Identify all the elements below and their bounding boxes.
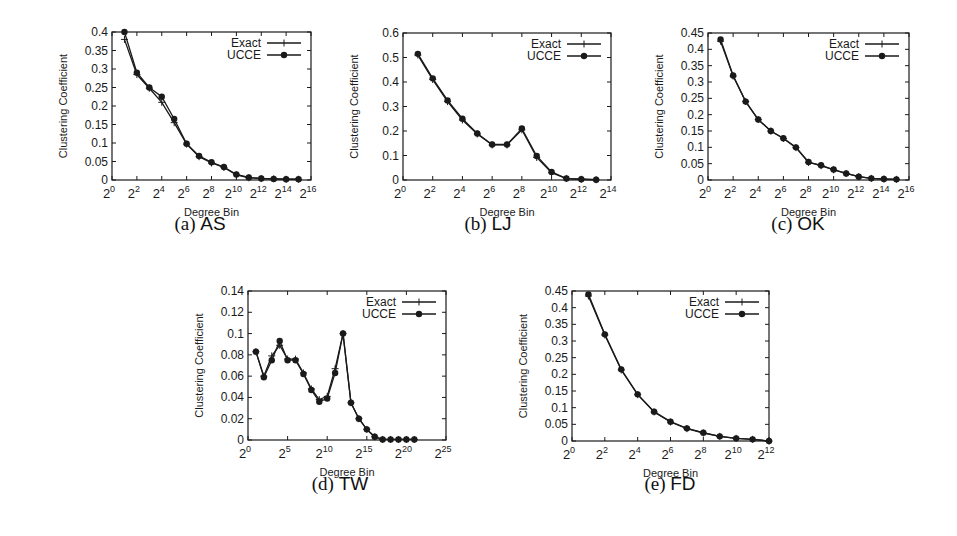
svg-text:22: 22: [424, 184, 436, 201]
chart-lj: 00.10.20.30.40.50.62022242628210212214De…: [320, 0, 640, 245]
svg-text:25: 25: [278, 444, 290, 461]
svg-text:0.1: 0.1: [382, 149, 399, 163]
svg-text:0.25: 0.25: [85, 81, 109, 95]
svg-text:214: 214: [872, 184, 889, 201]
svg-text:26: 26: [178, 184, 190, 201]
svg-text:0.4: 0.4: [687, 42, 704, 56]
svg-text:0.2: 0.2: [687, 108, 704, 122]
svg-text:0.4: 0.4: [91, 25, 108, 39]
caption-name: TW: [339, 473, 369, 494]
svg-text:225: 225: [434, 444, 451, 461]
svg-text:0.2: 0.2: [382, 124, 399, 138]
caption-label: (a): [174, 213, 195, 234]
svg-text:22: 22: [596, 445, 608, 462]
caption-name: OK: [797, 213, 824, 234]
caption-label: (c): [771, 213, 792, 234]
svg-text:22: 22: [128, 184, 140, 201]
svg-text:0.15: 0.15: [545, 384, 569, 398]
svg-text:0.1: 0.1: [551, 401, 568, 415]
svg-text:26: 26: [483, 184, 495, 201]
caption-tw: (d) TW: [270, 473, 410, 495]
svg-text:214: 214: [599, 184, 616, 201]
svg-text:0.14: 0.14: [221, 284, 245, 298]
svg-text:28: 28: [202, 184, 214, 201]
svg-text:24: 24: [453, 184, 465, 201]
svg-text:0.45: 0.45: [681, 26, 705, 40]
svg-text:210: 210: [316, 444, 333, 461]
svg-text:0.06: 0.06: [221, 369, 245, 383]
caption-lj: (b) LJ: [418, 213, 558, 235]
svg-text:20: 20: [103, 184, 115, 201]
chart-panel-as: 00.050.10.150.20.250.30.350.420222426282…: [0, 0, 320, 245]
svg-text:22: 22: [724, 184, 736, 201]
svg-text:212: 212: [847, 184, 864, 201]
svg-text:0.3: 0.3: [687, 75, 704, 89]
chart-panel-fd: 00.050.10.150.20.250.30.350.40.452022242…: [480, 260, 800, 500]
chart-fd: 00.050.10.150.20.250.30.350.40.452022242…: [480, 260, 800, 500]
svg-text:0.2: 0.2: [91, 99, 108, 113]
svg-text:0.25: 0.25: [545, 351, 569, 365]
svg-text:24: 24: [629, 445, 641, 462]
svg-text:0.15: 0.15: [85, 118, 109, 132]
svg-text:Clustering Coefficient: Clustering Coefficient: [348, 54, 360, 158]
svg-text:216: 216: [897, 184, 914, 201]
svg-text:215: 215: [355, 444, 372, 461]
svg-text:0: 0: [697, 173, 704, 187]
svg-text:0.3: 0.3: [382, 100, 399, 114]
svg-text:0.02: 0.02: [221, 412, 245, 426]
svg-text:216: 216: [299, 184, 316, 201]
svg-text:0.05: 0.05: [681, 157, 705, 171]
svg-text:Clustering Coefficient: Clustering Coefficient: [193, 313, 205, 417]
svg-text:20: 20: [394, 184, 406, 201]
chart-panel-tw: 00.020.040.060.080.10.120.14202521021522…: [160, 260, 480, 500]
caption-ok: (c) OK: [728, 213, 868, 235]
svg-text:0.05: 0.05: [545, 417, 569, 431]
caption-name: FD: [670, 473, 695, 494]
chart-panel-ok: 00.050.10.150.20.250.30.350.40.452022242…: [637, 0, 957, 245]
svg-text:220: 220: [395, 444, 412, 461]
chart-ok: 00.050.10.150.20.250.30.350.40.452022242…: [637, 0, 957, 245]
chart-panel-lj: 00.10.20.30.40.50.62022242628210212214De…: [320, 0, 640, 245]
caption-fd: (e) FD: [600, 473, 740, 495]
svg-text:212: 212: [570, 184, 587, 201]
svg-text:0.1: 0.1: [227, 327, 244, 341]
svg-text:UCCE: UCCE: [825, 49, 859, 63]
svg-text:0: 0: [392, 173, 399, 187]
svg-text:28: 28: [799, 184, 811, 201]
svg-text:UCCE: UCCE: [685, 307, 719, 321]
svg-text:0: 0: [561, 434, 568, 448]
svg-text:28: 28: [694, 445, 706, 462]
svg-text:0.1: 0.1: [91, 136, 108, 150]
svg-text:0.45: 0.45: [545, 284, 569, 298]
svg-text:UCCE: UCCE: [227, 48, 261, 62]
svg-text:20: 20: [563, 445, 575, 462]
svg-text:0.35: 0.35: [85, 44, 109, 58]
chart-as: 00.050.10.150.20.250.30.350.420222426282…: [0, 0, 320, 245]
svg-text:0.4: 0.4: [551, 301, 568, 315]
svg-text:0.6: 0.6: [382, 26, 399, 40]
svg-text:Clustering Coefficient: Clustering Coefficient: [653, 54, 665, 158]
svg-text:212: 212: [757, 445, 774, 462]
svg-text:0.5: 0.5: [382, 51, 399, 65]
svg-text:UCCE: UCCE: [527, 49, 561, 63]
svg-text:210: 210: [822, 184, 839, 201]
caption-name: AS: [200, 213, 225, 234]
svg-text:0.3: 0.3: [91, 62, 108, 76]
svg-text:0.25: 0.25: [681, 91, 705, 105]
svg-text:20: 20: [699, 184, 711, 201]
svg-text:28: 28: [513, 184, 525, 201]
svg-text:0.35: 0.35: [681, 59, 705, 73]
caption-label: (d): [312, 473, 334, 494]
svg-text:0.35: 0.35: [545, 317, 569, 331]
caption-as: (a) AS: [130, 213, 270, 235]
svg-text:Clustering Coefficient: Clustering Coefficient: [517, 314, 529, 418]
svg-text:0.1: 0.1: [687, 140, 704, 154]
svg-text:214: 214: [275, 184, 292, 201]
svg-text:210: 210: [225, 184, 242, 201]
svg-text:0.08: 0.08: [221, 348, 245, 362]
caption-name: LJ: [491, 213, 511, 234]
svg-text:0.15: 0.15: [681, 124, 705, 138]
svg-text:0.3: 0.3: [551, 334, 568, 348]
svg-text:0: 0: [101, 173, 108, 187]
svg-text:24: 24: [153, 184, 165, 201]
